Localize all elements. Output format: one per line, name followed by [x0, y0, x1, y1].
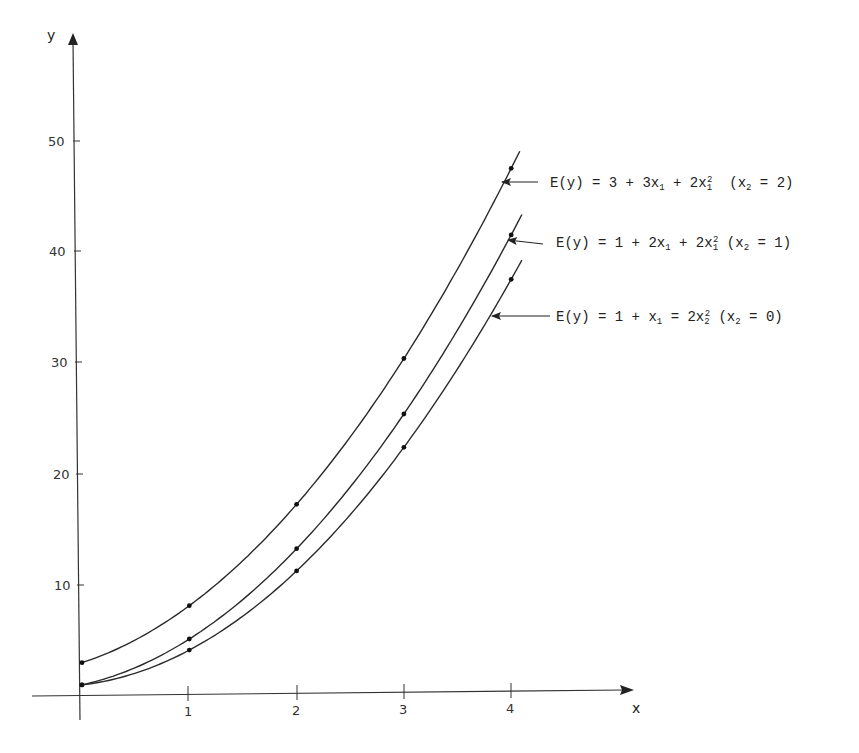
equation-label-x2-2: E(y) = 3 + 3x1 + 2x12 (x2 = 2): [550, 175, 793, 193]
data-point: [80, 683, 85, 688]
y-tick-label: 20: [53, 467, 70, 482]
y-tick-label: 30: [51, 355, 68, 370]
curve-series-2: [82, 215, 522, 685]
x-tick-label: 1: [184, 704, 192, 719]
data-point: [80, 660, 85, 665]
axes: y x: [32, 27, 640, 720]
x-axis-label: x: [632, 700, 640, 716]
y-tick-label: 10: [54, 578, 71, 593]
y-axis: [73, 40, 80, 720]
chart: y x 50 40 30 20 10 1 2 3 4 E(y): [0, 0, 859, 753]
curve-series-3: [82, 260, 522, 685]
x-ticks: 1 2 3 4: [184, 683, 514, 719]
data-point: [294, 569, 299, 574]
arrow-series-2: [508, 240, 543, 244]
y-ticks: 50 40 30 20 10: [48, 134, 84, 593]
data-point: [402, 412, 407, 417]
x-axis: [32, 690, 625, 696]
data-point: [509, 277, 514, 282]
annotation-arrows: [492, 182, 550, 316]
curves: [80, 151, 522, 687]
data-point: [402, 356, 407, 361]
data-point: [187, 648, 192, 653]
data-point: [294, 502, 299, 507]
x-tick-label: 4: [506, 701, 514, 716]
equation-label-x2-0: E(y) = 1 + x1 = 2x22 (x2 = 0): [556, 309, 783, 327]
y-axis-label: y: [47, 27, 55, 43]
equation-labels: E(y) = 3 + 3x1 + 2x12 (x2 = 2) E(y) = 1 …: [550, 175, 793, 327]
y-tick-label: 50: [48, 134, 65, 149]
data-point: [294, 546, 299, 551]
data-point: [187, 603, 192, 608]
curve-series-1: [82, 151, 520, 663]
equation-label-x2-1: E(y) = 1 + 2x1 + 2x12 (x2 = 1): [556, 235, 791, 253]
data-point: [509, 233, 514, 238]
data-point: [402, 445, 407, 450]
y-axis-arrow-icon: [68, 33, 78, 45]
x-tick-label: 2: [292, 703, 300, 718]
data-point: [187, 637, 192, 642]
x-axis-arrow-icon: [620, 685, 634, 695]
y-tick-label: 40: [49, 244, 66, 259]
x-tick-label: 3: [399, 702, 407, 717]
data-point: [509, 166, 514, 171]
